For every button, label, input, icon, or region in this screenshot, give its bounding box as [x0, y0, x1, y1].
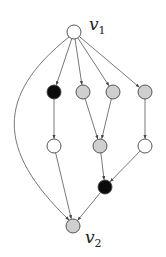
node-a3-gray: [106, 85, 120, 99]
edge-a3-b2: [102, 99, 112, 139]
label-v1: v1: [89, 14, 106, 37]
edge-c1-v2: [78, 192, 101, 220]
node-v1-white: [67, 25, 81, 39]
node-a2-gray: [76, 85, 90, 99]
edge-a2-b2: [85, 99, 98, 139]
node-b2-gray: [93, 139, 107, 153]
edge-v1-a4: [79, 37, 139, 88]
node-b3-white: [138, 139, 152, 153]
label-v1-base: v: [89, 14, 99, 34]
node-c1-black: [98, 180, 112, 194]
nodes-group: [47, 25, 152, 233]
label-v2-base: v: [85, 227, 95, 247]
edge-b3-c1: [110, 151, 140, 182]
edges-group: [14, 37, 145, 221]
node-b1-white: [47, 139, 61, 153]
node-v2-gray: [66, 219, 80, 233]
label-v2: v2: [85, 227, 102, 250]
label-v2-subscript: 2: [95, 237, 102, 250]
label-v1-subscript: 1: [99, 24, 106, 37]
node-a1-black: [47, 85, 61, 99]
edge-v1-a3: [78, 38, 109, 86]
directed-graph: v1 v2: [0, 0, 166, 257]
edge-b2-c1: [101, 153, 104, 180]
edge-v1-a2: [75, 39, 82, 85]
node-a4-gray: [138, 85, 152, 99]
edge-v1-v2: [14, 37, 69, 220]
